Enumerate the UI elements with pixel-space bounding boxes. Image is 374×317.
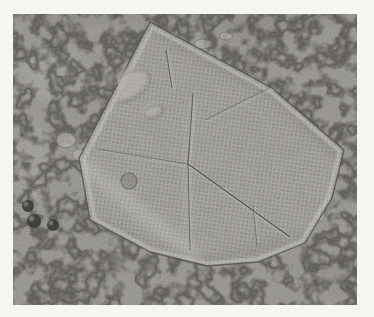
scan-page <box>0 0 374 317</box>
grain-light-overlay <box>13 14 357 305</box>
film-grain-overlay <box>13 14 357 305</box>
micrograph-canvas <box>13 14 357 305</box>
micrograph-photo <box>13 14 357 305</box>
